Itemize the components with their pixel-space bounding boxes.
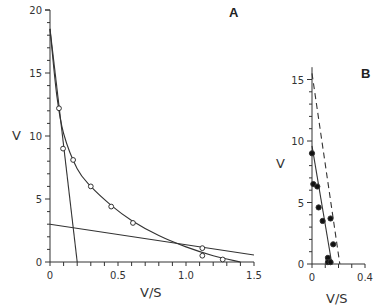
- panel-a-axes: 0510152000.51.01.5: [29, 5, 262, 281]
- panel-b-plot: 05101500.4 B V V/S: [276, 66, 373, 306]
- y-tick-label: 5: [298, 198, 304, 209]
- open-data-point: [220, 257, 225, 262]
- x-tick-label: 1.0: [178, 270, 194, 281]
- filled-data-point: [320, 218, 325, 223]
- panel-b-label: B: [361, 66, 370, 81]
- x-tick-label: 0: [309, 272, 315, 283]
- y-tick-label: 0: [298, 259, 304, 270]
- open-data-point: [200, 246, 205, 251]
- fitted-line: [50, 29, 77, 262]
- open-data-point: [200, 253, 205, 258]
- open-data-point: [57, 106, 62, 111]
- panel-b-axes: 05101500.4: [291, 67, 373, 283]
- y-tick-label: 20: [29, 5, 42, 16]
- x-tick-label: 0.5: [110, 270, 126, 281]
- open-data-point: [131, 221, 136, 226]
- open-data-point: [61, 146, 66, 151]
- fitted-line: [50, 224, 254, 255]
- open-data-point: [88, 184, 93, 189]
- y-tick-label: 0: [36, 257, 42, 268]
- y-tick-label: 15: [29, 68, 42, 79]
- y-tick-label: 10: [291, 136, 304, 147]
- panel-b-lines: [312, 73, 340, 264]
- filled-data-point: [331, 242, 336, 247]
- fitted-curve: [50, 29, 240, 262]
- y-tick-label: 10: [29, 131, 42, 142]
- x-tick-label: 1.5: [246, 270, 262, 281]
- panel-a-lines: [50, 29, 254, 262]
- y-tick-label: 15: [291, 75, 304, 86]
- panel-b-x-axis-label: V/S: [326, 291, 348, 306]
- panel-a-y-axis-label: V: [12, 128, 21, 143]
- panel-a-x-axis-label: V/S: [140, 285, 162, 300]
- open-data-point: [71, 158, 76, 163]
- fitted-line: [312, 146, 332, 264]
- filled-data-point: [316, 205, 321, 210]
- open-data-point: [109, 204, 114, 209]
- panel-a-label: A: [229, 5, 239, 20]
- y-tick-label: 5: [36, 194, 42, 205]
- filled-data-point: [309, 151, 314, 156]
- filled-data-point: [328, 216, 333, 221]
- x-tick-label: 0: [47, 270, 53, 281]
- panel-a-plot: 0510152000.51.01.5 A V V/S: [12, 5, 262, 300]
- x-tick-label: 0.4: [357, 272, 373, 283]
- filled-data-point: [328, 260, 333, 265]
- panel-b-y-axis-label: V: [276, 156, 285, 171]
- eadie-hofstee-figure: 0510152000.51.01.5 A V V/S 05101500.4 B …: [0, 0, 379, 307]
- filled-data-point: [315, 184, 320, 189]
